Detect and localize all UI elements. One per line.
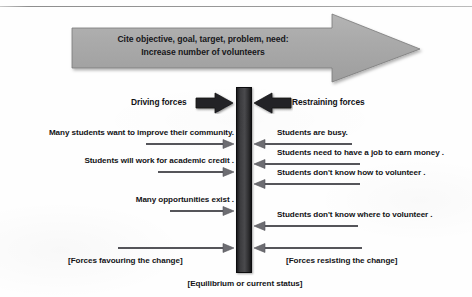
driving-force-arrow-3 (169, 203, 235, 221)
top-divider-rule (0, 6, 472, 7)
driving-forces-header: Driving forces (131, 97, 187, 107)
objective-line-1: Cite objective, goal, target, problem, n… (78, 33, 328, 46)
equilibrium-caption: [Equilibrium or current status] (150, 279, 340, 288)
forces-favouring-caption: [Forces favouring the change] (68, 256, 183, 265)
restraining-force-arrow-4 (253, 218, 359, 236)
forces-resisting-caption: [Forces resisting the change] (286, 256, 397, 265)
force-field-diagram: Cite objective, goal, target, problem, n… (0, 0, 472, 297)
objective-line-2: Increase number of volunteers (78, 46, 328, 59)
driving-force-arrow-1 (145, 136, 235, 154)
equilibrium-bar (236, 87, 252, 273)
driving-force-arrow-2 (157, 164, 235, 182)
restraining-force-arrow-3 (253, 176, 361, 194)
objective-arrow-text: Cite objective, goal, target, problem, n… (78, 33, 328, 58)
driving-block-arrow-icon (195, 92, 235, 118)
restraining-block-arrow-icon (253, 92, 293, 118)
restraining-forces-header: Restraining forces (292, 97, 365, 107)
